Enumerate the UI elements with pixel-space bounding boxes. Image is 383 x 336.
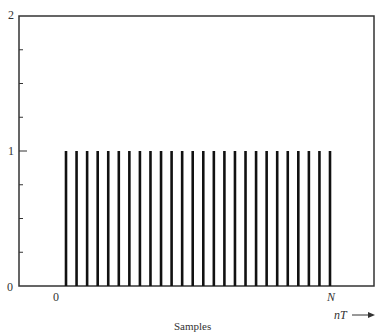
x-axis-title: Samples <box>174 320 211 332</box>
sample-stems <box>66 151 330 286</box>
plot-frame <box>19 16 374 286</box>
x-tick-label-end: N <box>327 291 335 303</box>
stem-plot <box>0 0 383 336</box>
y-tick-label-0: 0 <box>7 281 13 293</box>
y-tick-label-1: 1 <box>8 145 14 157</box>
time-arrow-icon <box>352 312 375 318</box>
y-axis-ticks <box>19 50 27 253</box>
x-tick-label-start: 0 <box>53 291 59 303</box>
x-axis-arrow-label: nT <box>334 309 347 321</box>
y-tick-label-2: 2 <box>8 9 14 21</box>
